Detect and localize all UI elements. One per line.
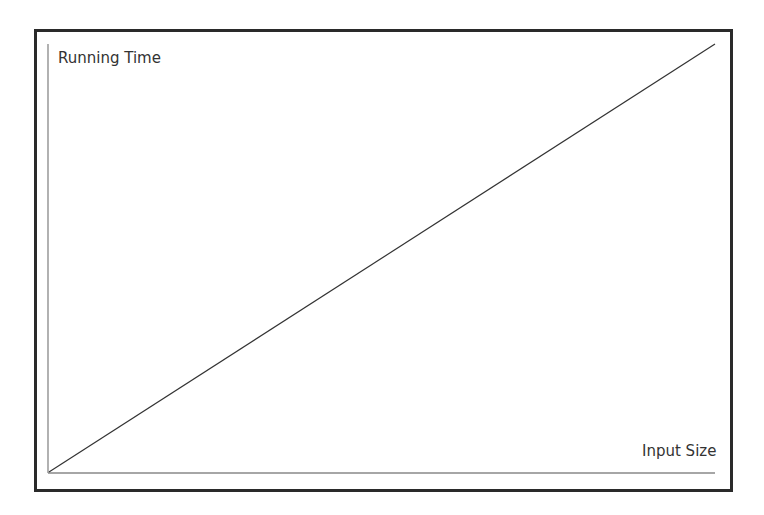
y-axis-label: Running Time — [58, 49, 161, 67]
chart-plot — [0, 0, 764, 515]
x-axis-label: Input Size — [642, 442, 716, 460]
linear-series-line — [49, 44, 715, 472]
